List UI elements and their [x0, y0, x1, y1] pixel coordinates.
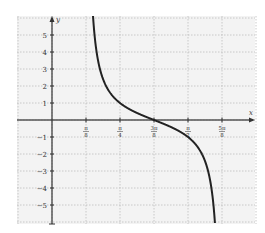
y-tick-label: −3	[37, 168, 47, 176]
y-tick-label: −4	[37, 185, 48, 193]
y-tick-label: −5	[37, 202, 47, 210]
svg-text:4: 4	[118, 132, 122, 138]
svg-text:8: 8	[84, 132, 88, 138]
y-tick-label: 3	[43, 66, 47, 74]
y-tick-label: −1	[37, 134, 47, 142]
y-tick-label: 1	[43, 100, 47, 108]
x-tick-label: π	[118, 125, 122, 131]
x-tick-label: π	[84, 125, 88, 131]
svg-text:8: 8	[220, 132, 224, 138]
svg-text:8: 8	[152, 132, 156, 138]
y-tick-label: −2	[37, 151, 47, 159]
tangent-chart: 54321−1−2−3−4−5π8π43π8π25π8 x y	[0, 0, 265, 233]
x-tick-label: π	[186, 125, 190, 131]
x-tick-label: 5π	[218, 125, 225, 131]
y-tick-label: 2	[43, 83, 47, 91]
y-tick-label: 5	[43, 32, 47, 40]
y-tick-label: 4	[43, 49, 48, 57]
x-tick-label: 3π	[150, 125, 157, 131]
x-axis-label: x	[249, 109, 253, 117]
